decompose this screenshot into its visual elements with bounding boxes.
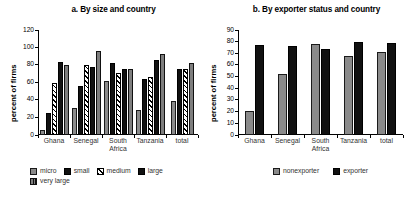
legend-label: exporter [343, 167, 368, 175]
x-tick-label-line: Africa [304, 145, 337, 153]
bar-micro [136, 110, 141, 135]
y-tick-mark [235, 123, 238, 124]
chart-b-plot-area: 9080706050403020100 [238, 30, 403, 135]
x-tick-label-line: South [102, 137, 134, 145]
y-tick-mark [235, 111, 238, 112]
chart-panel-a: a. By size and country percent of firms … [0, 0, 205, 201]
y-tick-label: 20 [27, 113, 34, 121]
legend-item-micro[interactable]: micro [30, 167, 57, 175]
bar-group-senegal [70, 30, 102, 135]
y-tick-label: 120 [23, 26, 34, 34]
legend-label: very large [40, 177, 70, 185]
x-tick-label: SouthAfrica [102, 137, 134, 153]
x-tick-label: Tanzania [134, 137, 166, 153]
bar-micro [171, 101, 176, 135]
chart-a-plot-area: 120100806040200 [38, 30, 198, 135]
chart-b-y-axis-label: percent of firms [209, 65, 218, 122]
x-tick-label-line: Senegal [271, 137, 304, 145]
legend-item-small[interactable]: small [64, 167, 90, 175]
x-tick-label-line: Senegal [70, 137, 102, 145]
y-tick-label: 0 [30, 131, 34, 139]
x-tick-label-line: Tanzania [337, 137, 370, 145]
bar-group-ghana [238, 30, 271, 135]
bar-nonexporter [377, 52, 386, 135]
bar-large [90, 67, 95, 135]
chart-a-title: a. By size and country [0, 5, 205, 14]
y-tick-label: 70 [227, 49, 234, 57]
bar-large [122, 69, 127, 136]
bar-group-tanzania [337, 30, 370, 135]
legend-swatch-icon [30, 178, 37, 185]
legend-swatch-icon [273, 168, 280, 175]
y-tick-mark [235, 64, 238, 65]
legend-label: micro [40, 167, 57, 175]
x-tick-label: Ghana [38, 137, 70, 153]
y-tick-label: 40 [27, 95, 34, 103]
bar-small [110, 63, 115, 135]
bar-exporter [288, 46, 297, 135]
bar-group-senegal [271, 30, 304, 135]
bar-medium [148, 77, 153, 135]
chart-a-bar-groups [38, 30, 198, 135]
y-tick-label: 30 [227, 95, 234, 103]
legend-swatch-icon [30, 168, 37, 175]
y-tick-label: 80 [27, 60, 34, 68]
chart-b-bar-groups [238, 30, 403, 135]
y-tick-mark [235, 30, 238, 31]
y-tick-mark [235, 41, 238, 42]
y-tick-label: 50 [227, 72, 234, 80]
bar-very-large [96, 51, 101, 135]
legend-label: nonexporter [283, 167, 319, 175]
x-tick-label: total [370, 137, 403, 153]
chart-b-title: b. By exporter status and country [206, 5, 411, 14]
bar-exporter [321, 49, 330, 135]
y-tick-label: 60 [227, 60, 234, 68]
bar-small [46, 113, 51, 135]
y-tick-label: 40 [227, 84, 234, 92]
bar-exporter [255, 45, 264, 135]
bar-micro [40, 130, 45, 135]
x-tick-label-line: total [370, 137, 403, 145]
bar-large [154, 60, 159, 135]
legend-item-very-large[interactable]: very large [30, 177, 70, 185]
x-tick-label: Senegal [70, 137, 102, 153]
bar-nonexporter [311, 44, 320, 135]
bar-medium [183, 69, 188, 135]
legend-item-large[interactable]: large [138, 167, 163, 175]
legend-item-medium[interactable]: medium [97, 167, 131, 175]
bar-very-large [160, 54, 165, 135]
bar-nonexporter [245, 111, 254, 136]
bar-nonexporter [278, 74, 287, 135]
bar-medium [84, 65, 89, 135]
legend-label: medium [107, 167, 131, 175]
bar-group-ghana [38, 30, 70, 135]
x-tick-label: total [166, 137, 198, 153]
bar-group-south-africa [304, 30, 337, 135]
bar-very-large [64, 65, 69, 135]
bar-group-total [370, 30, 403, 135]
y-tick-mark [35, 47, 38, 48]
bar-very-large [189, 63, 194, 135]
bar-medium [52, 83, 57, 136]
x-tick-label-line: Ghana [38, 137, 70, 145]
x-tick-label-line: Africa [102, 145, 134, 153]
legend-item-exporter[interactable]: exporter [333, 167, 368, 175]
y-tick-label: 60 [27, 78, 34, 86]
y-tick-mark [235, 99, 238, 100]
legend-item-nonexporter[interactable]: nonexporter [273, 167, 319, 175]
legend-swatch-icon [97, 168, 104, 175]
x-tick-label-line: total [166, 137, 198, 145]
x-tick-label-line: Ghana [238, 137, 271, 145]
bar-small [78, 86, 83, 135]
x-tick-label: SouthAfrica [304, 137, 337, 153]
bar-micro [72, 108, 77, 135]
bar-exporter [354, 42, 363, 135]
chart-a-legend: microsmallmediumlargevery large [30, 167, 205, 185]
y-tick-label: 80 [227, 37, 234, 45]
x-tick-label-line: South [304, 137, 337, 145]
chart-b-x-tick-labels: GhanaSenegalSouthAfricaTanzaniatotal [238, 137, 403, 153]
y-tick-label: 10 [227, 119, 234, 127]
y-tick-mark [35, 117, 38, 118]
y-tick-label: 20 [227, 107, 234, 115]
y-tick-mark [235, 88, 238, 89]
